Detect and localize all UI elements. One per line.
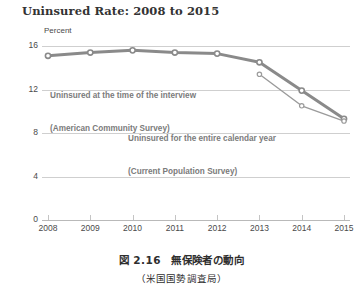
x-axis-tick-2015: 2015 [324,223,363,233]
x-axis-tick-2013: 2013 [239,223,279,233]
data-point-marker [299,88,304,93]
x-axis-tick-mark-2014 [302,215,303,220]
x-axis-line [42,220,350,221]
x-axis-tick-mark-2011 [175,215,176,220]
x-axis-tick-mark-2012 [217,215,218,220]
series-annotation-cps-line1: Uninsured for the entire calendar year [128,133,276,144]
figure: Uninsured Rate: 2008 to 2015 Percent 048… [0,0,363,301]
x-axis-tick-2012: 2012 [197,223,237,233]
x-axis-tick-2014: 2014 [282,223,322,233]
x-axis-tick-mark-2013 [259,215,260,220]
figure-caption: 図 2.16 無保険者の動向 （米国国勢調査局） [0,252,363,285]
figure-caption-source: （米国国勢調査局） [0,271,363,285]
x-axis-tick-mark-2010 [133,215,134,220]
x-axis-tick-mark-2008 [48,215,49,220]
x-axis-tick-2009: 2009 [70,223,110,233]
chart-title: Uninsured Rate: 2008 to 2015 [22,4,219,18]
plot-area: Percent 0481216 200820092010201120122013… [0,26,363,236]
data-point-marker [215,51,220,56]
x-axis-tick-2010: 2010 [113,223,153,233]
data-point-marker [257,72,261,76]
figure-caption-main: 図 2.16 無保険者の動向 [0,252,363,267]
data-point-marker [88,50,93,55]
data-point-marker [342,119,346,123]
series-annotation-cps-line2: (Current Population Survey) [128,166,276,177]
x-axis-tick-2008: 2008 [28,223,68,233]
x-axis-tick-mark-2009 [90,215,91,220]
series-annotation-cps: Uninsured for the entire calendar year (… [128,111,276,199]
data-point-marker [45,53,50,58]
data-point-marker [172,50,177,55]
x-axis-tick-2011: 2011 [155,223,195,233]
data-point-marker [257,60,262,65]
data-point-marker [300,104,304,108]
data-point-marker [130,48,135,53]
x-axis-tick-mark-2015 [344,215,345,220]
series-annotation-acs-line1: Uninsured at the time of the interview [50,90,196,101]
